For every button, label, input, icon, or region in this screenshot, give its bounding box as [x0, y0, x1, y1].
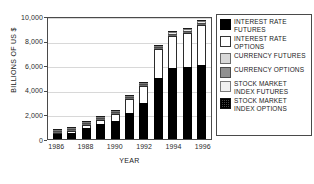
legend-item: CURRENCY OPTIONS [220, 66, 309, 78]
bar-segment [53, 134, 62, 139]
legend-item: STOCK MARKET INDEX FUTURES [220, 80, 309, 95]
bar-segment [197, 25, 206, 65]
y-axis-tick-label: 0 [39, 137, 43, 144]
bar [197, 20, 206, 139]
bar-series-group [48, 18, 211, 139]
x-axis-tick-label: 1990 [107, 143, 123, 150]
bar-segment [111, 114, 120, 121]
legend-item-label: CURRENCY FUTURES [234, 52, 306, 60]
bar [96, 116, 105, 139]
y-axis-tick-label: 2,000 [25, 112, 43, 119]
y-axis-tick-label: 10,000 [21, 14, 43, 21]
bar-segment [96, 124, 105, 139]
bar-segment [125, 99, 134, 112]
bar-segment [154, 78, 163, 139]
bar-segment [139, 86, 148, 103]
y-axis: 02,0004,0006,0008,00010,000 [0, 0, 47, 160]
y-axis-tick-mark [44, 140, 47, 141]
bar [154, 45, 163, 139]
y-axis-tick-label: 6,000 [25, 63, 43, 70]
bar-segment [139, 103, 148, 139]
bar-segment [197, 65, 206, 139]
bar-segment [168, 68, 177, 139]
x-axis-tick-label: 1994 [165, 143, 181, 150]
x-axis-tick-label: 1988 [78, 143, 94, 150]
legend-item: INTEREST RATE FUTURES [220, 18, 309, 33]
x-axis-tick-label: 1986 [48, 143, 64, 150]
bar [111, 110, 120, 139]
chart-legend: INTEREST RATE FUTURESINTEREST RATE OPTIO… [216, 14, 312, 136]
legend-item: CURRENCY FUTURES [220, 52, 309, 64]
legend-swatch-icon [220, 36, 231, 47]
chart-figure: 02,0004,0006,0008,00010,000 BILLIONS OF … [0, 0, 314, 184]
x-axis-tick-label: 1992 [136, 143, 152, 150]
x-axis: 198619881990199219941996 [47, 143, 212, 155]
legend-item-label: CURRENCY OPTIONS [234, 66, 304, 74]
bar-segment [67, 133, 76, 139]
bar [53, 129, 62, 139]
legend-item-label: STOCK MARKET INDEX OPTIONS [234, 97, 287, 112]
bar-segment [183, 67, 192, 139]
bar-segment [183, 33, 192, 67]
legend-swatch-icon [220, 19, 231, 30]
bar [168, 31, 177, 139]
y-axis-title: BILLIONS OF US $ [10, 5, 18, 115]
bar [139, 82, 148, 139]
y-axis-tick-label: 4,000 [25, 87, 43, 94]
legend-item: INTEREST RATE OPTIONS [220, 35, 309, 50]
legend-item-label: INTEREST RATE FUTURES [234, 18, 287, 33]
legend-item-label: STOCK MARKET INDEX FUTURES [234, 80, 288, 95]
bar [125, 95, 134, 139]
bar-segment [125, 113, 134, 140]
x-axis-tick-label: 1996 [195, 143, 211, 150]
bar [82, 121, 91, 139]
bar-segment [154, 49, 163, 78]
bar-segment [82, 128, 91, 139]
y-axis-tick-label: 8,000 [25, 38, 43, 45]
x-axis-title: YEAR [47, 157, 212, 164]
legend-item: STOCK MARKET INDEX OPTIONS [220, 97, 309, 112]
legend-swatch-icon [220, 81, 231, 92]
bar [67, 127, 76, 139]
legend-swatch-icon [220, 53, 231, 64]
bar-segment [168, 36, 177, 68]
legend-swatch-icon [220, 98, 231, 109]
plot-area [47, 17, 212, 140]
bar [183, 28, 192, 139]
legend-swatch-icon [220, 67, 231, 78]
bar-segment [111, 121, 120, 139]
legend-item-label: INTEREST RATE OPTIONS [234, 35, 287, 50]
